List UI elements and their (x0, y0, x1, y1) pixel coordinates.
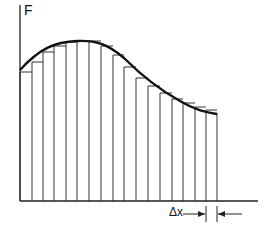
diagram-canvas (0, 0, 275, 233)
delta-x-label: Δx (169, 205, 183, 219)
riemann-sum-diagram: F Δx (0, 0, 275, 233)
rectangular-strips (20, 41, 217, 201)
y-axis-label: F (24, 2, 33, 18)
delta-x-marker (183, 206, 242, 222)
